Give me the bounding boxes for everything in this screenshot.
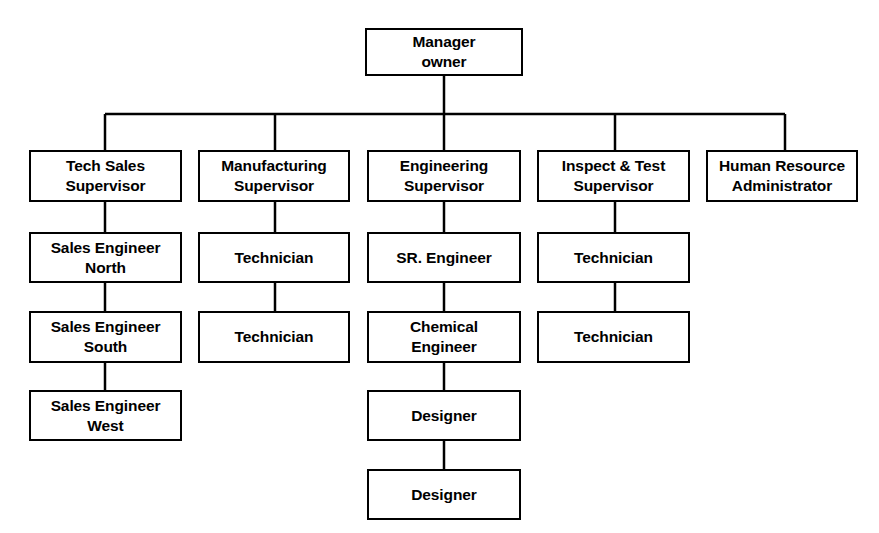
org-node-sr-engineer[interactable]: SR. Engineer: [367, 232, 521, 283]
org-node-label: Engineering Supervisor: [400, 156, 488, 196]
org-node-designer-2[interactable]: Designer: [367, 469, 521, 520]
org-node-label: SR. Engineer: [396, 248, 491, 268]
org-node-sales-engineer-south[interactable]: Sales Engineer South: [29, 311, 182, 363]
org-node-inspect-test-supervisor[interactable]: Inspect & Test Supervisor: [537, 150, 690, 202]
org-node-manufacturing-supervisor[interactable]: Manufacturing Supervisor: [198, 150, 350, 202]
org-chart: Manager ownerTech Sales SupervisorSales …: [0, 0, 879, 533]
org-node-manufacturing-technician-2[interactable]: Technician: [198, 311, 350, 363]
org-node-designer-1[interactable]: Designer: [367, 390, 521, 441]
org-node-label: Chemical Engineer: [410, 317, 478, 357]
org-node-label: Inspect & Test Supervisor: [562, 156, 665, 196]
org-node-manufacturing-technician-1[interactable]: Technician: [198, 232, 350, 283]
org-node-inspect-technician-1[interactable]: Technician: [537, 232, 690, 283]
org-node-label: Technician: [235, 327, 314, 347]
org-node-human-resource-administrator[interactable]: Human Resource Administrator: [706, 150, 858, 202]
org-node-label: Tech Sales Supervisor: [66, 156, 146, 196]
org-node-label: Manufacturing Supervisor: [221, 156, 326, 196]
org-node-label: Human Resource Administrator: [719, 156, 845, 196]
org-node-label: Sales Engineer North: [51, 238, 161, 278]
org-node-label: Manager owner: [412, 32, 475, 72]
org-node-label: Technician: [574, 327, 653, 347]
org-node-label: Technician: [574, 248, 653, 268]
org-node-inspect-technician-2[interactable]: Technician: [537, 311, 690, 363]
org-node-label: Designer: [411, 485, 477, 505]
org-node-sales-engineer-north[interactable]: Sales Engineer North: [29, 232, 182, 283]
org-node-engineering-supervisor[interactable]: Engineering Supervisor: [367, 150, 521, 202]
org-node-label: Technician: [235, 248, 314, 268]
org-node-sales-engineer-west[interactable]: Sales Engineer West: [29, 390, 182, 441]
org-node-label: Sales Engineer West: [51, 396, 161, 436]
org-node-tech-sales-supervisor[interactable]: Tech Sales Supervisor: [29, 150, 182, 202]
org-node-label: Sales Engineer South: [51, 317, 161, 357]
org-node-manager-owner[interactable]: Manager owner: [365, 28, 523, 76]
org-node-label: Designer: [411, 406, 477, 426]
org-node-chemical-engineer[interactable]: Chemical Engineer: [367, 311, 521, 363]
